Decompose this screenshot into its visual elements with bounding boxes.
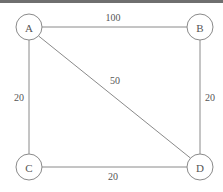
node-label-c: C	[25, 162, 32, 174]
edge-weight-a-b: 100	[106, 12, 121, 23]
graph-diagram: A B C D 100 20 50 20 20	[0, 0, 223, 192]
node-label-b: B	[196, 22, 203, 34]
node-label-d: D	[196, 162, 204, 174]
edge-weight-a-d: 50	[110, 75, 120, 86]
edge-weight-b-d: 20	[205, 92, 215, 103]
edge-weight-a-c: 20	[14, 92, 24, 103]
edge-a-d	[39, 36, 191, 158]
node-label-a: A	[25, 22, 33, 34]
edge-weight-c-d: 20	[108, 171, 118, 182]
edge-group	[29, 27, 200, 167]
